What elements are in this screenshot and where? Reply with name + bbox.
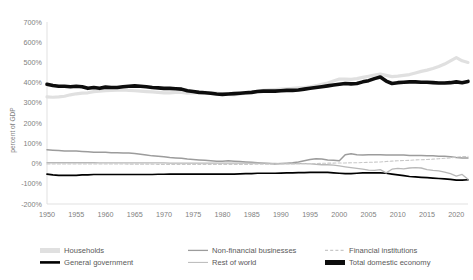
- legend-item[interactable]: Non-financial businesses: [188, 246, 297, 255]
- chart-svg: -200%-100%0%100%200%300%400%500%600%700%…: [0, 0, 473, 280]
- y-tick-label: 0%: [32, 159, 43, 168]
- series-line: [47, 163, 468, 180]
- x-tick-label: 1970: [156, 210, 172, 219]
- series-line: [47, 172, 468, 180]
- x-tick-label: 1950: [39, 210, 55, 219]
- y-tick-label: 300%: [24, 98, 43, 107]
- x-tick-label: 2010: [390, 210, 406, 219]
- x-tick-label: 2000: [331, 210, 347, 219]
- x-tick-label: 1990: [273, 210, 289, 219]
- y-tick-label: -100%: [21, 179, 42, 188]
- legend-marker: [325, 260, 345, 265]
- x-tick-label: 2005: [361, 210, 377, 219]
- legend-item[interactable]: Financial institutions: [325, 246, 418, 255]
- series-line: [47, 150, 468, 164]
- y-tick-label: 400%: [24, 78, 43, 87]
- x-tick-label: 1975: [185, 210, 201, 219]
- x-tick-label: 1965: [127, 210, 143, 219]
- legend-item[interactable]: Rest of world: [188, 258, 256, 267]
- legend-label: Households: [64, 246, 104, 255]
- y-tick-label: 700%: [24, 18, 43, 27]
- legend-label: General government: [64, 258, 134, 267]
- legend-item[interactable]: Households: [40, 246, 104, 255]
- y-axis-title: percent of GDP: [9, 107, 17, 153]
- chart-legend: HouseholdsNon-financial businessesFinanc…: [40, 246, 431, 267]
- legend-label: Non-financial businesses: [212, 246, 297, 255]
- legend-item[interactable]: Total domestic economy: [325, 258, 431, 267]
- legend-label: Total domestic economy: [349, 258, 431, 267]
- x-tick-label: 1980: [214, 210, 230, 219]
- legend-item[interactable]: General government: [40, 258, 134, 267]
- x-tick-label: 2015: [419, 210, 435, 219]
- x-tick-label: 1955: [68, 210, 84, 219]
- data-series-group: [47, 58, 468, 181]
- x-tick-label: 1960: [97, 210, 113, 219]
- chart-container: -200%-100%0%100%200%300%400%500%600%700%…: [0, 0, 473, 280]
- y-tick-label: 600%: [24, 38, 43, 47]
- x-tick-label: 1995: [302, 210, 318, 219]
- y-tick-label: -200%: [21, 200, 42, 209]
- y-tick-label: 500%: [24, 58, 43, 67]
- y-axis-tick-labels: -200%-100%0%100%200%300%400%500%600%700%: [21, 18, 42, 209]
- legend-label: Rest of world: [212, 258, 256, 267]
- legend-marker: [40, 248, 60, 253]
- x-tick-label: 2020: [448, 210, 464, 219]
- y-tick-label: 200%: [24, 119, 43, 128]
- x-tick-label: 1985: [244, 210, 260, 219]
- y-tick-label: 100%: [24, 139, 43, 148]
- legend-label: Financial institutions: [349, 246, 418, 255]
- x-axis-tick-labels: 1950195519601965197019751980198519901995…: [39, 210, 464, 219]
